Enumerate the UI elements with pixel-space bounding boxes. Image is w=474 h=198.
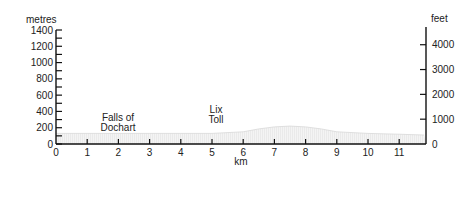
left-tick-label: 800 — [36, 73, 53, 84]
annotation-line: Dochart — [100, 122, 135, 133]
x-axis-unit-label: km — [234, 156, 247, 167]
annotation-line: Toll — [208, 114, 223, 125]
x-tick-label: 0 — [53, 147, 59, 158]
left-axis-unit-label: metres — [26, 14, 57, 25]
x-tick-label: 4 — [178, 147, 184, 158]
right-axis-feet: 01000200030004000 — [420, 27, 455, 150]
right-tick-label: 4000 — [432, 39, 455, 50]
x-tick-label: 10 — [362, 147, 374, 158]
x-tick-label: 3 — [147, 147, 153, 158]
left-tick-label: 1000 — [31, 57, 54, 68]
x-tick-label: 7 — [272, 147, 278, 158]
x-tick-label: 1 — [84, 147, 90, 158]
x-tick-label: 5 — [209, 147, 215, 158]
right-tick-label: 1000 — [432, 114, 455, 125]
left-tick-label: 200 — [36, 122, 53, 133]
left-tick-label: 400 — [36, 106, 53, 117]
left-tick-label: 1200 — [31, 41, 54, 52]
right-axis-unit-label: feet — [431, 13, 448, 24]
elevation-chart: 0200400600800100012001400 01000200030004… — [0, 0, 474, 198]
right-tick-label: 2000 — [432, 89, 455, 100]
annotation-lix-toll: Lix Toll — [208, 104, 223, 125]
x-tick-label: 8 — [303, 147, 309, 158]
x-tick-label: 9 — [334, 147, 340, 158]
annotation-falls-of-dochart: Falls of Dochart — [100, 112, 135, 133]
right-tick-label: 3000 — [432, 64, 455, 75]
x-tick-label: 2 — [116, 147, 122, 158]
right-tick-label: 0 — [432, 139, 438, 150]
left-axis-metres: 0200400600800100012001400 — [31, 25, 62, 150]
x-tick-label: 11 — [394, 147, 405, 158]
left-tick-label: 600 — [36, 90, 53, 101]
left-tick-label: 1400 — [31, 25, 54, 36]
